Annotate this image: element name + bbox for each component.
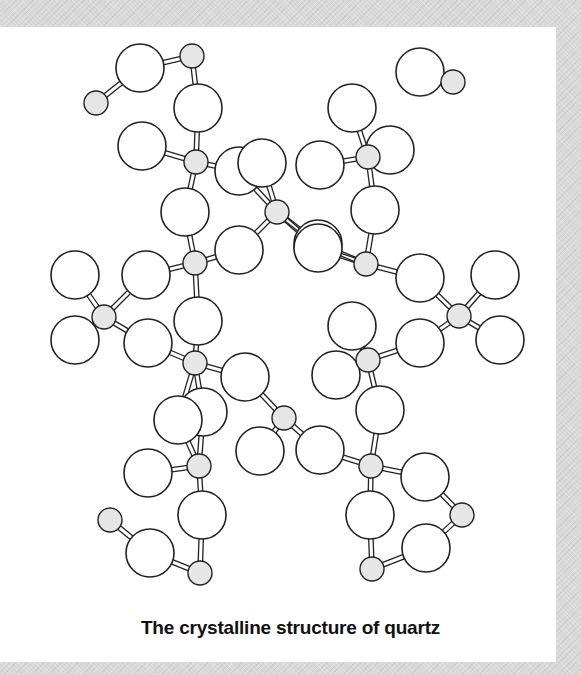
silicon-atom bbox=[187, 454, 211, 478]
oxygen-atom bbox=[346, 491, 394, 539]
silicon-atom bbox=[447, 304, 471, 328]
silicon-atom bbox=[356, 348, 380, 372]
oxygen-atom bbox=[154, 396, 202, 444]
silicon-atom bbox=[265, 200, 289, 224]
oxygen-atom bbox=[476, 316, 524, 364]
oxygen-atom bbox=[296, 141, 344, 189]
oxygen-atom bbox=[471, 251, 519, 299]
oxygen-atom bbox=[294, 224, 342, 272]
oxygen-atom bbox=[328, 302, 376, 350]
oxygen-atom bbox=[178, 491, 226, 539]
silicon-atom bbox=[183, 351, 207, 375]
quartz-structure-diagram bbox=[0, 0, 581, 675]
oxygen-atom bbox=[124, 449, 172, 497]
silicon-atom bbox=[183, 251, 207, 275]
oxygen-atom bbox=[221, 353, 269, 401]
oxygen-atom bbox=[124, 319, 172, 367]
oxygen-atom bbox=[51, 316, 99, 364]
silicon-atom bbox=[98, 508, 122, 532]
silicon-atom bbox=[272, 406, 296, 430]
oxygen-atom bbox=[351, 186, 399, 234]
silicon-atom bbox=[84, 91, 108, 115]
oxygen-atom bbox=[396, 48, 444, 96]
oxygen-atom bbox=[174, 297, 222, 345]
silicon-atom bbox=[441, 70, 465, 94]
oxygen-atom bbox=[51, 251, 99, 299]
oxygen-atom bbox=[126, 529, 174, 577]
oxygen-atom bbox=[122, 251, 170, 299]
oxygen-atom bbox=[236, 427, 284, 475]
silicon-atom bbox=[354, 252, 378, 276]
silicon-atom bbox=[188, 561, 212, 585]
oxygen-atom bbox=[312, 351, 360, 399]
oxygen-atom bbox=[402, 524, 450, 572]
oxygen-atom bbox=[118, 122, 166, 170]
oxygen-atom bbox=[396, 254, 444, 302]
oxygen-atom bbox=[161, 188, 209, 236]
silicon-atom bbox=[360, 557, 384, 581]
oxygen-atom bbox=[238, 139, 286, 187]
oxygen-atom bbox=[328, 84, 376, 132]
figure-caption: The crystalline structure of quartz bbox=[0, 617, 581, 639]
oxygen-atom bbox=[396, 319, 444, 367]
oxygen-atom bbox=[174, 84, 222, 132]
oxygen-atom bbox=[401, 453, 449, 501]
oxygen-atom bbox=[296, 426, 344, 474]
oxygen-atom bbox=[356, 386, 404, 434]
oxygen-atom bbox=[215, 226, 263, 274]
silicon-atom bbox=[450, 503, 474, 527]
silicon-atom bbox=[356, 145, 380, 169]
silicon-atom bbox=[180, 44, 204, 68]
silicon-atom bbox=[184, 150, 208, 174]
silicon-atom bbox=[92, 305, 116, 329]
silicon-atom bbox=[359, 454, 383, 478]
oxygen-atom bbox=[116, 44, 164, 92]
